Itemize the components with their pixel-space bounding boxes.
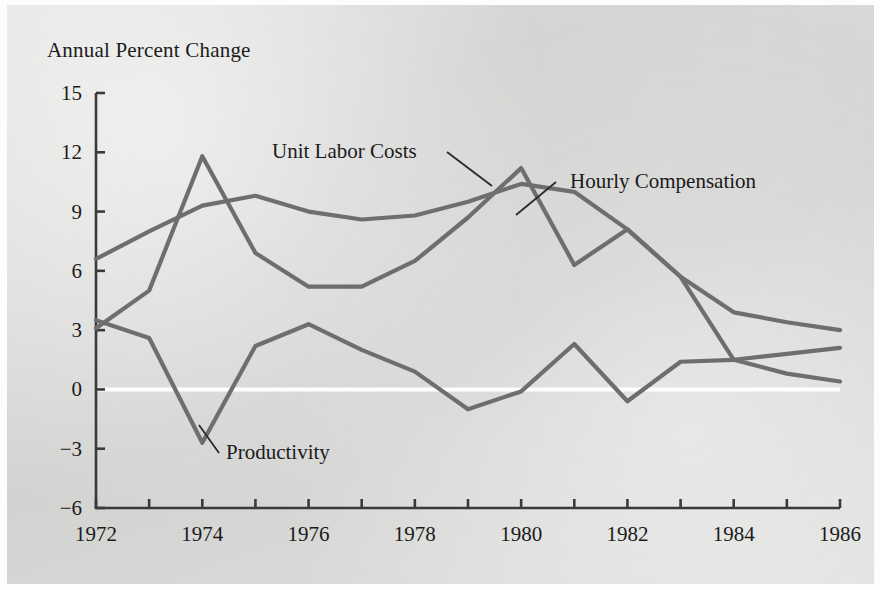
annotation-label-unit-labor-costs: Unit Labor Costs <box>272 139 417 163</box>
y-axis-tick-label: −3 <box>60 437 82 461</box>
x-axis-tick-labels: 19721974197619781980198219841986 <box>75 522 861 546</box>
annotation-label-hourly-compensation: Hourly Compensation <box>570 169 757 193</box>
series-line-hourly-compensation <box>96 184 840 330</box>
figure-container: Annual Percent Change 15129630−3−6 19721… <box>0 0 880 590</box>
x-axis-ticks <box>96 499 840 508</box>
y-axis-tick-label: 0 <box>72 377 83 401</box>
x-axis-tick-label: 1982 <box>606 522 648 546</box>
x-axis-tick-label: 1976 <box>288 522 330 546</box>
series-line-productivity <box>96 320 840 443</box>
annotation-labels-group: Unit Labor CostsHourly CompensationProdu… <box>226 139 757 464</box>
x-axis-tick-label: 1986 <box>819 522 861 546</box>
y-axis-ticks <box>96 93 105 508</box>
y-axis-tick-label: 3 <box>72 318 83 342</box>
y-axis-tick-label: 12 <box>61 140 82 164</box>
y-axis-tick-label: 9 <box>72 200 83 224</box>
x-axis-tick-label: 1980 <box>500 522 542 546</box>
x-axis-tick-label: 1972 <box>75 522 117 546</box>
line-chart: 15129630−3−6 197219741976197819801982198… <box>0 0 880 590</box>
axis-spines <box>96 93 840 508</box>
y-axis-tick-labels: 15129630−3−6 <box>60 81 82 520</box>
x-axis-tick-label: 1984 <box>713 522 756 546</box>
series-lines-group <box>96 156 840 443</box>
x-axis-tick-label: 1978 <box>394 522 436 546</box>
y-axis-tick-label: 6 <box>72 259 83 283</box>
y-axis-tick-label: −6 <box>60 496 82 520</box>
leader-line <box>447 152 492 186</box>
y-axis-tick-label: 15 <box>61 81 82 105</box>
x-axis-tick-label: 1974 <box>181 522 224 546</box>
annotation-label-productivity: Productivity <box>226 440 330 464</box>
